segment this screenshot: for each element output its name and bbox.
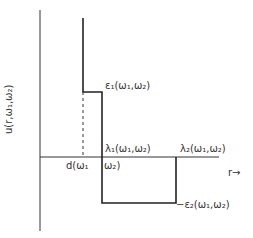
potential-curve — [83, 18, 176, 203]
epsilon1-label: ε₁(ω₁,ω₂) — [105, 81, 150, 91]
y-axis-label: u(r,ω₁,ω₂) — [4, 85, 14, 134]
x-axis-label: r→ — [228, 168, 241, 178]
d-label-tail: ω₂) — [104, 161, 120, 171]
lambda1-label: λ₁(ω₁,ω₂) — [105, 144, 151, 154]
d-label: d(ω₁ — [66, 161, 89, 171]
lambda2-label: λ₂(ω₁,ω₂) — [180, 144, 226, 154]
neg-epsilon2-label: −ε₂(ω₁,ω₂) — [176, 200, 230, 210]
